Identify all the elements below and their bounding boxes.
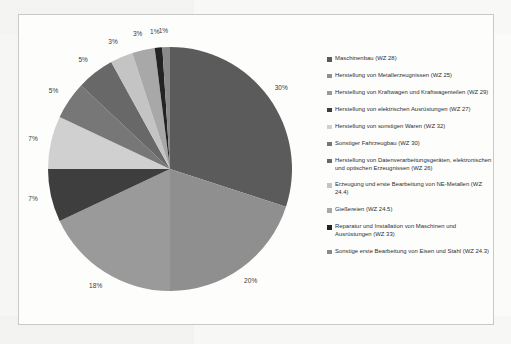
- legend-item-label: Herstellung von Datenverarbeitungsgeräte…: [335, 157, 493, 172]
- pie-value-label: 5%: [49, 87, 59, 94]
- legend-item[interactable]: Herstellung von elektrischen Ausrüstunge…: [327, 106, 493, 114]
- legend-swatch-icon: [327, 108, 332, 113]
- chart-frame: 30%20%18%7%7%5%5%3%3%1%1% Maschinenbau (…: [18, 14, 494, 325]
- pie-plot-area: 30%20%18%7%7%5%5%3%3%1%1%: [19, 15, 319, 324]
- legend-swatch-icon: [327, 125, 332, 130]
- legend-item[interactable]: Herstellung von Metallerzeugnissen (WZ 2…: [327, 72, 493, 80]
- legend-item-label: Herstellung von elektrischen Ausrüstunge…: [335, 106, 471, 114]
- legend-item-label: Maschinenbau (WZ 28): [335, 55, 397, 63]
- legend-item[interactable]: Sonstiger Fahrzeugbau (WZ 30): [327, 140, 493, 148]
- pie-chart-svg: [47, 23, 293, 315]
- legend-item-label: Erzeugung und erste Bearbeitung von NE-M…: [335, 181, 493, 196]
- legend-item-label: Reparatur und Installation von Maschinen…: [335, 223, 493, 238]
- legend-item[interactable]: Gießereien (WZ 24.5): [327, 206, 493, 214]
- legend-swatch-icon: [327, 208, 332, 213]
- legend-item-label: Herstellung von Metallerzeugnissen (WZ 2…: [335, 72, 452, 80]
- legend-swatch-icon: [327, 142, 332, 147]
- legend-item[interactable]: Herstellung von Datenverarbeitungsgeräte…: [327, 157, 493, 172]
- pie-value-label: 1%: [159, 27, 169, 34]
- legend-item[interactable]: Herstellung von Kraftwagen und Kraftwage…: [327, 89, 493, 97]
- legend-item-label: Herstellung von Kraftwagen und Kraftwage…: [335, 89, 488, 97]
- pie-value-label: 5%: [78, 56, 88, 63]
- legend-item-label: Sonstiger Fahrzeugbau (WZ 30): [335, 140, 420, 148]
- legend-swatch-icon: [327, 74, 332, 79]
- legend-item-label: Herstellung von sonstigen Waren (WZ 32): [335, 123, 445, 131]
- legend-item[interactable]: Herstellung von sonstigen Waren (WZ 32): [327, 123, 493, 131]
- legend-item[interactable]: Maschinenbau (WZ 28): [327, 55, 493, 63]
- chart-legend: Maschinenbau (WZ 28)Herstellung von Meta…: [327, 55, 493, 265]
- legend-item[interactable]: Reparatur und Installation von Maschinen…: [327, 223, 493, 238]
- pie-value-label: 3%: [133, 30, 143, 37]
- legend-swatch-icon: [327, 57, 332, 62]
- pie-value-label: 30%: [275, 84, 288, 91]
- legend-swatch-icon: [327, 183, 332, 188]
- legend-item[interactable]: Sonstige erste Bearbeitung von Eisen und…: [327, 248, 493, 256]
- legend-swatch-icon: [327, 225, 332, 230]
- legend-item[interactable]: Erzeugung und erste Bearbeitung von NE-M…: [327, 181, 493, 196]
- legend-item-label: Sonstige erste Bearbeitung von Eisen und…: [335, 248, 489, 256]
- legend-item-label: Gießereien (WZ 24.5): [335, 206, 392, 214]
- pie-value-label: 18%: [89, 282, 102, 289]
- legend-swatch-icon: [327, 250, 332, 255]
- pie-value-label: 3%: [108, 38, 118, 45]
- pie-value-label: 7%: [28, 135, 38, 142]
- legend-swatch-icon: [327, 159, 332, 164]
- pie-value-label: 7%: [28, 195, 38, 202]
- pie-value-label: 20%: [244, 277, 257, 284]
- legend-swatch-icon: [327, 91, 332, 96]
